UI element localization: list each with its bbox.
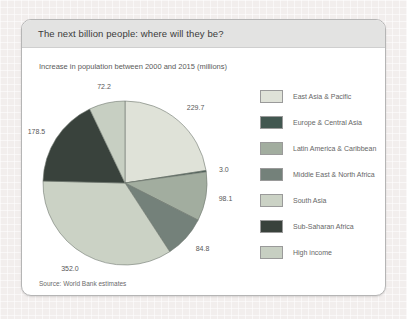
legend-label: High income [293, 249, 332, 256]
legend-label: East Asia & Pacific [293, 93, 351, 100]
legend-item: High income [260, 246, 376, 259]
pie-value-label: 72.2 [97, 83, 111, 90]
legend-swatch [260, 194, 283, 207]
pie-value-label: 352.0 [61, 265, 79, 272]
legend-item: East Asia & Pacific [260, 90, 376, 103]
pie-slice [125, 101, 206, 183]
legend-item: South Asia [260, 194, 376, 207]
legend-label: Middle East & North Africa [293, 171, 375, 178]
legend-label: Sub-Saharan Africa [293, 223, 354, 230]
legend-swatch [260, 142, 283, 155]
chart-legend: East Asia & PacificEurope & Central Asia… [260, 90, 376, 272]
source-note: Source: World Bank estimates [39, 280, 126, 287]
pie-value-label: 3.0 [219, 166, 229, 173]
legend-item: Middle East & North Africa [260, 168, 376, 181]
legend-swatch [260, 220, 283, 233]
legend-item: Latin America & Caribbean [260, 142, 376, 155]
legend-label: South Asia [293, 197, 326, 204]
legend-item: Europe & Central Asia [260, 116, 376, 129]
chart-card: The next billion people: where will they… [21, 19, 386, 296]
pie-value-label: 84.8 [196, 245, 210, 252]
pie-value-label: 178.5 [28, 128, 46, 135]
legend-swatch [260, 246, 283, 259]
pie-value-label: 98.1 [219, 195, 233, 202]
legend-swatch [260, 168, 283, 181]
legend-label: Latin America & Caribbean [293, 145, 376, 152]
pie-value-label: 229.7 [187, 104, 205, 111]
legend-item: Sub-Saharan Africa [260, 220, 376, 233]
legend-swatch [260, 116, 283, 129]
legend-label: Europe & Central Asia [293, 119, 362, 126]
legend-swatch [260, 90, 283, 103]
